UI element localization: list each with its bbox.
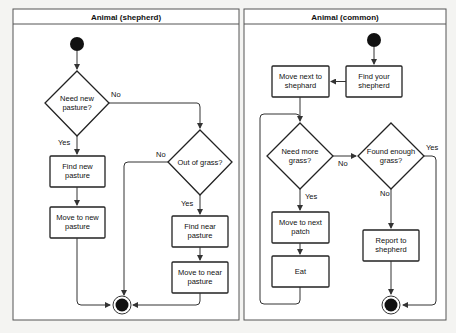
svg-text:Move next to: Move next to <box>279 72 322 81</box>
svg-text:Move to near: Move to near <box>178 268 222 277</box>
svg-text:pasture: pasture <box>187 277 212 286</box>
svg-text:pasture: pasture <box>65 171 90 180</box>
activity-diagram: Animal (shepherd) Need new pasture? No Y… <box>0 0 456 333</box>
svg-text:shepherd: shepherd <box>358 81 389 90</box>
svg-text:Move to new: Move to new <box>56 213 99 222</box>
edge-label-yes: Yes <box>305 192 317 201</box>
svg-text:Find your: Find your <box>358 72 390 81</box>
svg-text:Out of grass?: Out of grass? <box>177 158 222 167</box>
svg-text:Need more: Need more <box>281 147 318 156</box>
end-node-icon <box>113 296 131 314</box>
svg-text:Need new: Need new <box>60 94 94 103</box>
svg-text:Move to next: Move to next <box>279 218 323 227</box>
svg-text:patch: patch <box>291 227 309 236</box>
svg-text:Report to: Report to <box>376 236 407 245</box>
swimlane-shepherd: Animal (shepherd) Need new pasture? No Y… <box>13 9 239 320</box>
swimlane-common: Animal (common) Find your shepherd Move … <box>244 9 446 320</box>
svg-text:Find new: Find new <box>62 162 93 171</box>
edge-label-yes: Yes <box>426 143 438 152</box>
svg-text:shephard: shephard <box>285 81 316 90</box>
svg-text:pasture: pasture <box>65 222 90 231</box>
action-find-near-pasture[interactable]: Find near pasture <box>172 216 228 247</box>
edge-label-no: No <box>380 189 390 198</box>
svg-text:shepherd: shepherd <box>375 245 406 254</box>
edge-label-no: No <box>111 90 121 99</box>
action-move-to-next-patch[interactable]: Move to next patch <box>272 212 329 243</box>
start-node-icon <box>70 37 84 51</box>
action-find-your-shepherd[interactable]: Find your shepherd <box>346 66 402 97</box>
svg-text:grass?: grass? <box>380 156 403 165</box>
edge-label-no: No <box>338 159 348 168</box>
action-move-to-new-pasture[interactable]: Move to new pasture <box>50 207 105 238</box>
start-node-icon <box>367 33 381 47</box>
svg-text:pasture?: pasture? <box>62 103 91 112</box>
svg-text:Find near: Find near <box>184 222 216 231</box>
lane-title-common: Animal (common) <box>311 13 379 22</box>
lane-title-shepherd: Animal (shepherd) <box>91 13 162 22</box>
action-move-to-near-pasture[interactable]: Move to near pasture <box>172 262 228 293</box>
edge-label-yes: Yes <box>58 138 70 147</box>
edge-label-yes: Yes <box>181 199 193 208</box>
action-eat[interactable]: Eat <box>272 256 329 287</box>
svg-text:Eat: Eat <box>295 267 307 276</box>
svg-text:pasture: pasture <box>187 231 212 240</box>
svg-text:Found enough: Found enough <box>367 147 415 156</box>
end-node-icon <box>382 296 400 314</box>
edge-label-no: No <box>156 150 166 159</box>
action-report-to-shepherd[interactable]: Report to shepherd <box>363 230 419 261</box>
action-move-next-to-shephard[interactable]: Move next to shephard <box>272 66 329 97</box>
svg-text:grass?: grass? <box>289 156 312 165</box>
action-find-new-pasture[interactable]: Find new pasture <box>50 156 105 187</box>
